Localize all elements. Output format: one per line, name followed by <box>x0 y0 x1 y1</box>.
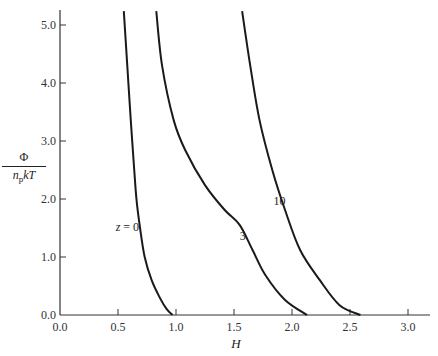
x-tick-label: 2.0 <box>285 320 300 334</box>
y-tick-label: 5.0 <box>41 18 56 32</box>
x-tick-label: 1.0 <box>169 320 184 334</box>
curve-10 <box>242 11 360 315</box>
curve-label: z = 0 <box>115 220 139 234</box>
chart-plot: 0.00.51.01.52.02.53.0 0.01.02.03.04.05.0… <box>0 0 438 356</box>
y-tick-label: 0.0 <box>41 308 56 322</box>
x-tick-label: 2.5 <box>343 320 358 334</box>
axes <box>60 10 430 315</box>
x-axis-label: H <box>230 336 241 351</box>
y-tick-label: 3.0 <box>41 134 56 148</box>
x-tick-label: 1.5 <box>227 320 242 334</box>
y-label-denominator: npkT <box>2 167 46 184</box>
y-axis-label: Φ npkT <box>2 150 46 184</box>
y-tick-label: 4.0 <box>41 76 56 90</box>
y-tick-label: 2.0 <box>41 192 56 206</box>
x-ticks: 0.00.51.01.52.02.53.0 <box>53 309 416 334</box>
y-label-numerator: Φ <box>2 150 46 167</box>
x-tick-label: 0.5 <box>111 320 126 334</box>
y-tick-label: 1.0 <box>41 250 56 264</box>
x-tick-label: 3.0 <box>401 320 416 334</box>
curve-z0 <box>124 11 173 315</box>
curve-3 <box>156 11 307 315</box>
curves <box>124 11 361 315</box>
curve-label: 3 <box>240 229 246 243</box>
curve-label: 10 <box>273 194 285 208</box>
x-tick-label: 0.0 <box>53 320 68 334</box>
